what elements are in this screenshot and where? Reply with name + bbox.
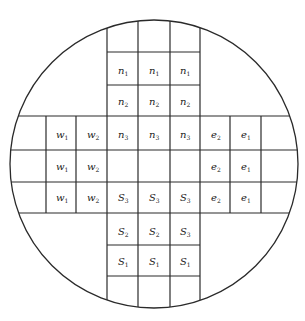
cell-label-subscript: 1 — [247, 134, 251, 141]
cell-label-n1-c: n1 — [180, 65, 190, 77]
cell-label-subscript: 1 — [156, 261, 160, 268]
cell-label-subscript: 1 — [247, 197, 251, 204]
cell-label-subscript: 1 — [65, 197, 69, 204]
cell-label-e1-b: e1 — [241, 161, 251, 173]
cell-label-subscript: 1 — [65, 166, 69, 173]
cell-label-w1-a: w1 — [56, 129, 68, 141]
cell-label-subscript: 3 — [124, 134, 128, 141]
cell-label-subscript: 2 — [217, 134, 221, 141]
cell-labels: n1n1n1n2n2n2n3n3n3w1w2w1w2w1w2e2e1e2e1e2… — [56, 65, 251, 268]
cell-label-subscript: 1 — [125, 261, 129, 268]
cell-label-subscript: 1 — [155, 70, 159, 77]
cell-label-S2-c: S3 — [180, 226, 191, 238]
cell-label-subscript: 3 — [186, 134, 190, 141]
cell-label-subscript: 1 — [124, 70, 128, 77]
cell-label-n2-a: n2 — [118, 96, 128, 108]
cell-label-n1-b: n1 — [149, 65, 159, 77]
cell-label-S3-b: S3 — [149, 192, 160, 204]
grid-lines — [0, 0, 305, 321]
cell-label-n3-c: n3 — [180, 129, 190, 141]
cell-label-n2-c: n2 — [180, 96, 190, 108]
cell-label-n1-a: n1 — [118, 65, 128, 77]
cell-label-e2-c: e2 — [211, 192, 221, 204]
cell-label-subscript: 3 — [187, 231, 191, 238]
cell-label-subscript: 1 — [65, 134, 69, 141]
cell-label-subscript: 3 — [187, 197, 191, 204]
cell-label-subscript: 2 — [156, 231, 160, 238]
cell-label-e1-a: e1 — [241, 129, 251, 141]
cell-label-e2-a: e2 — [211, 129, 221, 141]
cell-label-S3-a: S3 — [118, 192, 129, 204]
cell-label-w2-c: w2 — [87, 192, 100, 204]
cell-label-e2-b: e2 — [211, 161, 221, 173]
cell-label-S2-b: S2 — [149, 226, 160, 238]
cell-label-S2-a: S2 — [118, 226, 129, 238]
cell-label-subscript: 2 — [124, 101, 128, 108]
cell-label-w1-c: w1 — [56, 192, 68, 204]
cell-label-subscript: 3 — [156, 197, 160, 204]
cell-label-w2-a: w2 — [87, 129, 100, 141]
cell-label-subscript: 2 — [217, 197, 221, 204]
cell-label-subscript: 1 — [186, 70, 190, 77]
cell-label-subscript: 3 — [125, 197, 129, 204]
cell-label-n3-a: n3 — [118, 129, 128, 141]
cell-label-subscript: 3 — [155, 134, 159, 141]
cell-label-w1-b: w1 — [56, 161, 68, 173]
cell-label-subscript: 2 — [217, 166, 221, 173]
cell-label-subscript: 2 — [96, 197, 100, 204]
cell-label-S3-c: S3 — [180, 192, 191, 204]
cell-label-n2-b: n2 — [149, 96, 159, 108]
cell-label-S1-c: S1 — [180, 256, 191, 268]
circular-grid-diagram: n1n1n1n2n2n2n3n3n3w1w2w1w2w1w2e2e1e2e1e2… — [0, 0, 305, 321]
cell-label-subscript: 2 — [96, 134, 100, 141]
cell-label-subscript: 1 — [247, 166, 251, 173]
cell-label-subscript: 2 — [96, 166, 100, 173]
cell-label-subscript: 2 — [125, 231, 129, 238]
cell-label-S1-b: S1 — [149, 256, 160, 268]
cell-label-w2-b: w2 — [87, 161, 100, 173]
cell-label-n3-b: n3 — [149, 129, 159, 141]
cell-label-subscript: 2 — [186, 101, 190, 108]
cell-label-e1-c: e1 — [241, 192, 251, 204]
cell-label-subscript: 2 — [155, 101, 159, 108]
cell-label-S1-a: S1 — [118, 256, 129, 268]
cell-label-subscript: 1 — [187, 261, 191, 268]
